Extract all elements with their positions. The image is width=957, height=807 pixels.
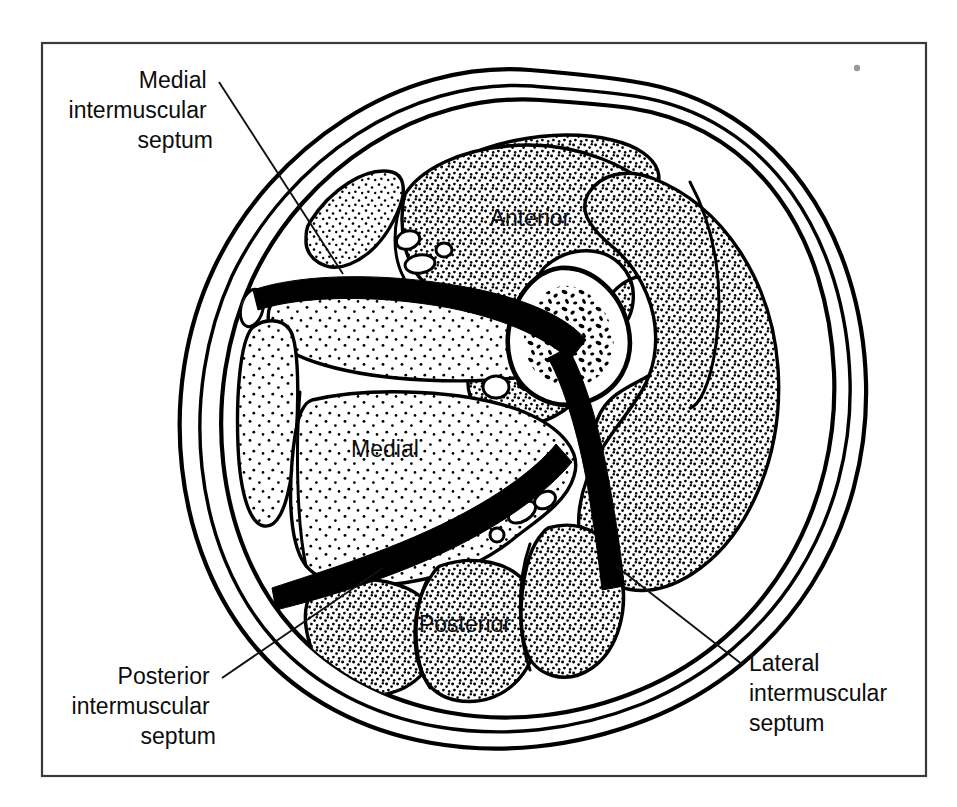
label-line-2: intermuscular bbox=[749, 680, 887, 706]
label-line-1: Lateral bbox=[749, 650, 819, 676]
label-line-1: Posterior bbox=[118, 663, 210, 689]
figure-root: Medial intermuscular septum Posterior in… bbox=[0, 0, 957, 807]
vessel-mid-a bbox=[483, 376, 509, 398]
label-line-3: septum bbox=[141, 723, 216, 749]
vessel-upper-c bbox=[436, 243, 452, 257]
label-line-2: intermuscular bbox=[72, 693, 210, 719]
vessel-lower-c bbox=[490, 528, 504, 542]
label-medial-compartment: Medial bbox=[351, 436, 419, 462]
limb-cross-section-figure: Medial intermuscular septum Posterior in… bbox=[0, 0, 957, 807]
medial-muscle-lateral-strip bbox=[238, 321, 298, 526]
label-posterior-compartment: Posterior bbox=[419, 611, 511, 637]
label-anterior-compartment: Anterior bbox=[490, 205, 571, 231]
print-speck bbox=[854, 65, 860, 71]
label-line-3: septum bbox=[749, 710, 824, 736]
label-line-3: septum bbox=[138, 127, 213, 153]
label-line-2: intermuscular bbox=[69, 97, 207, 123]
label-line-1: Medial bbox=[139, 67, 207, 93]
